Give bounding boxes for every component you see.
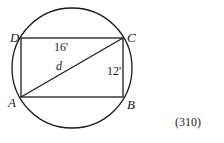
figure-number: (310) bbox=[175, 115, 201, 129]
vertex-label-d: D bbox=[9, 30, 20, 45]
inscribed-rectangle-diagram: D C A B 16' d 12' (310) bbox=[0, 0, 224, 143]
vertex-label-c: C bbox=[127, 30, 136, 45]
top-side-length: 16' bbox=[54, 40, 68, 54]
diagonal-label: d bbox=[56, 59, 63, 73]
vertex-label-a: A bbox=[7, 95, 16, 110]
vertex-label-b: B bbox=[127, 97, 135, 112]
right-side-length: 12' bbox=[107, 64, 121, 78]
